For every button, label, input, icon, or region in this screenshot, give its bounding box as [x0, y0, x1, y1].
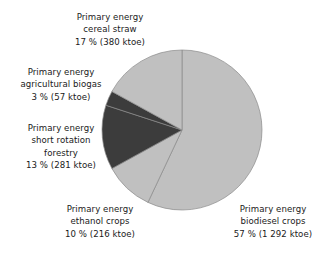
slice-label-value: 10 % (216 ktoe) [38, 228, 162, 240]
slice-label-line: Primary energy [38, 203, 162, 215]
slice-label-line: Primary energy [2, 66, 120, 78]
pie-chart-figure: Primary energy cereal straw 17 % (380 kt… [0, 0, 335, 257]
slice-label-line: Primary energy [212, 203, 334, 215]
slice-label-short-rotation-forestry: Primary energy short rotation forestry 1… [2, 122, 120, 172]
slice-label-value: 13 % (281 ktoe) [2, 159, 120, 171]
slice-label-value: 3 % (57 ktoe) [2, 91, 120, 103]
slice-label-value: 17 % (380 ktoe) [46, 36, 174, 48]
slice-label-line: agricultural biogas [2, 78, 120, 90]
slice-label-cereal-straw: Primary energy cereal straw 17 % (380 kt… [46, 11, 174, 48]
slice-label-line: Primary energy [2, 122, 120, 134]
slice-label-line: ethanol crops [38, 215, 162, 227]
slice-label-line: short rotation [2, 134, 120, 146]
slice-label-line: Primary energy [46, 11, 174, 23]
slice-label-value: 57 % (1 292 ktoe) [212, 228, 334, 240]
slice-label-biodiesel-crops: Primary energy biodiesel crops 57 % (1 2… [212, 203, 334, 240]
slice-label-line: biodiesel crops [212, 215, 334, 227]
slice-label-line: cereal straw [46, 23, 174, 35]
slice-label-ethanol-crops: Primary energy ethanol crops 10 % (216 k… [38, 203, 162, 240]
slice-label-agricultural-biogas: Primary energy agricultural biogas 3 % (… [2, 66, 120, 103]
pie-slice-group [102, 50, 262, 210]
slice-label-line: forestry [2, 147, 120, 159]
